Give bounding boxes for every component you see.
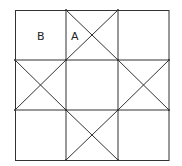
vertex-dot — [117, 9, 119, 11]
vertex-dot — [168, 109, 170, 111]
vertex-dot — [65, 159, 67, 161]
vertex-dot — [65, 59, 67, 61]
label-a: A — [71, 30, 79, 43]
vertex-dot — [14, 109, 16, 111]
vertex-dot — [65, 9, 67, 11]
star-quilt-diagram: B A — [0, 0, 182, 166]
vertex-dot — [117, 59, 119, 61]
vertex-dot — [65, 109, 67, 111]
vertex-dot — [168, 59, 170, 61]
vertex-dot — [117, 159, 119, 161]
label-b: B — [37, 30, 45, 43]
vertex-dot — [14, 59, 16, 61]
vertex-dot — [117, 109, 119, 111]
